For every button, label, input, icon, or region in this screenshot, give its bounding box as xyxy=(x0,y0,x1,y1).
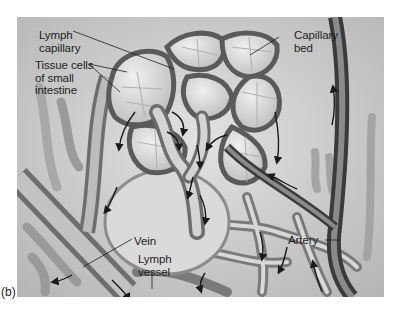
label-lymph-capillary: Lymph capillary xyxy=(39,29,80,54)
label-line: capillary xyxy=(39,42,80,55)
label-line: Lymph xyxy=(39,29,80,42)
label-line: of small xyxy=(35,72,93,85)
label-line: Tissue cells xyxy=(35,59,93,72)
label-line: intestine xyxy=(35,84,93,97)
label-vein: Vein xyxy=(134,235,156,248)
label-line: Capillary xyxy=(294,29,338,42)
label-line: vessel xyxy=(138,266,172,279)
label-artery: Artery xyxy=(288,234,318,247)
label-lymph-vessel: Lymph vessel xyxy=(138,253,172,278)
label-tissue-cells: Tissue cells of small intestine xyxy=(35,59,93,97)
label-line: bed xyxy=(294,42,338,55)
illustration-panel: Lymph capillary Tissue cells of small in… xyxy=(17,17,384,297)
panel-label: (b) xyxy=(1,285,16,299)
label-line: Lymph xyxy=(138,253,172,266)
label-capillary-bed: Capillary bed xyxy=(294,29,338,54)
